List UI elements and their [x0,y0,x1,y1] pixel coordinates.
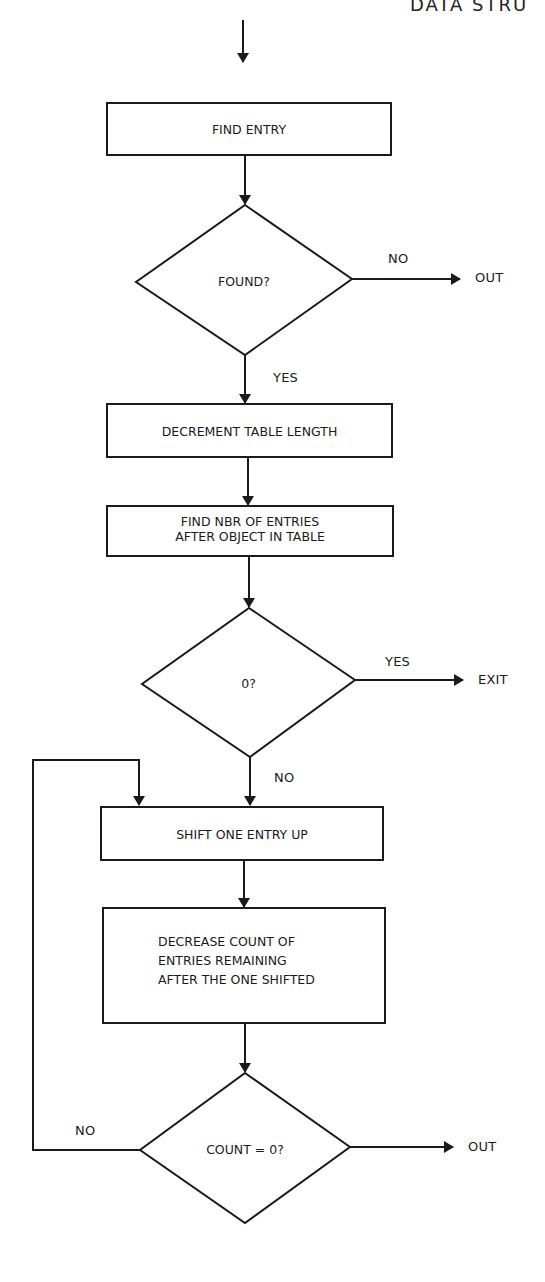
flowchart [0,0,545,1282]
exit-terminal: EXIT [478,673,508,686]
zero-no-label: NO [274,771,294,784]
decrement-label: DECREMENT TABLE LENGTH [107,424,392,439]
found-yes-label: YES [273,371,298,384]
find-nbr-label: FIND NBR OF ENTRIES AFTER OBJECT IN TABL… [107,514,393,544]
shift-label: SHIFT ONE ENTRY UP [101,827,383,842]
zero-label: 0? [142,676,355,691]
found-no-label: NO [388,252,408,265]
loop-back-line [33,760,140,1150]
found-label: FOUND? [136,274,352,289]
zero-yes-label: YES [385,655,410,668]
out-terminal-1: OUT [475,271,503,284]
count-no-label: NO [75,1124,95,1137]
count-zero-label: COUNT = 0? [140,1142,350,1157]
find-entry-label: FIND ENTRY [107,122,391,137]
decrease-label: DECREASE COUNT OF ENTRIES REMAINING AFTE… [158,933,378,989]
out-terminal-2: OUT [468,1140,496,1153]
